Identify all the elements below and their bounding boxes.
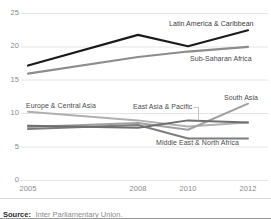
source-label: Source:	[3, 210, 31, 219]
source-footer: Source: Inter Parliamentary Union.	[0, 198, 271, 219]
y-tick-10: 10	[0, 109, 19, 117]
x-tick-2010: 2010	[168, 185, 208, 193]
series-label-south-asia: South Asia	[224, 94, 258, 102]
series-label-sub-saharan-africa: Sub-Saharan Africa	[190, 55, 252, 63]
series-label-east-asia-pacific: East Asia & Pacific	[133, 103, 192, 111]
y-tick-15: 15	[0, 76, 19, 84]
series-label-latin-america-caribbean: Latin America & Caribbean	[169, 20, 254, 28]
plot-area: 25 20 15 10 5 0 2005 2008 2010 2012 Lati…	[0, 0, 271, 196]
series-label-middle-east-north-africa: Middle East & North Africa	[156, 139, 239, 147]
x-tick-2008: 2008	[118, 185, 158, 193]
series-lines	[28, 30, 248, 138]
source-text: Inter Parliamentary Union.	[35, 210, 122, 219]
x-tick-2012: 2012	[228, 185, 268, 193]
y-tick-25: 25	[0, 9, 19, 17]
x-tick-2005: 2005	[8, 185, 48, 193]
y-tick-20: 20	[0, 42, 19, 50]
chart-figure: 25 20 15 10 5 0 2005 2008 2010 2012 Lati…	[0, 0, 271, 219]
y-tick-5: 5	[0, 143, 19, 151]
series-label-europe-central-asia: Europe & Central Asia	[26, 102, 96, 110]
y-tick-0: 0	[0, 176, 19, 184]
